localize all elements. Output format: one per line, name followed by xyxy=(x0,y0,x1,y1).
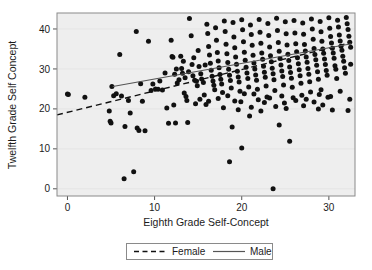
scatter-point xyxy=(281,82,286,87)
scatter-point xyxy=(277,122,282,127)
scatter-point xyxy=(319,39,324,44)
scatter-point xyxy=(322,56,327,61)
scatter-point xyxy=(290,85,295,90)
scatter-point xyxy=(330,108,335,113)
scatter-point xyxy=(245,76,250,81)
scatter-point xyxy=(195,83,200,88)
scatter-point xyxy=(232,45,237,50)
scatter-point xyxy=(318,19,323,24)
scatter-point xyxy=(179,66,184,71)
scatter-point xyxy=(284,31,289,36)
scatter-point xyxy=(287,139,292,144)
scatter-point xyxy=(317,92,322,97)
scatter-point xyxy=(333,67,338,72)
y-axis-label: Twelfth Grade Self Concept xyxy=(6,41,18,169)
y-tick-label: 10 xyxy=(39,143,51,154)
x-axis-label: Eighth Grade Self-Concept xyxy=(143,216,269,228)
scatter-point xyxy=(300,20,305,25)
scatter-point xyxy=(181,59,186,64)
scatter-point xyxy=(293,98,298,103)
scatter-point xyxy=(319,29,324,34)
scatter-point xyxy=(193,101,198,106)
scatter-point xyxy=(185,120,190,125)
scatter-plot-figure: 010203040 0102030 Eighth Grade Self-Conc… xyxy=(0,0,372,270)
scatter-point xyxy=(348,62,353,67)
scatter-point xyxy=(233,54,238,59)
scatter-point xyxy=(198,71,203,76)
scatter-point xyxy=(325,73,330,78)
scatter-point xyxy=(296,61,301,66)
scatter-point xyxy=(213,25,218,30)
scatter-point xyxy=(313,57,318,62)
scatter-point xyxy=(221,105,226,110)
scatter-point xyxy=(109,120,114,125)
x-tick-label: 20 xyxy=(236,202,248,213)
scatter-point xyxy=(328,34,333,39)
scatter-point xyxy=(223,29,228,34)
scatter-point xyxy=(231,34,236,39)
scatter-point xyxy=(238,99,243,104)
scatter-point xyxy=(320,102,325,107)
scatter-point xyxy=(239,146,244,151)
scatter-point xyxy=(323,62,328,67)
scatter-point xyxy=(218,77,223,82)
scatter-point xyxy=(267,44,272,49)
scatter-point xyxy=(302,42,307,47)
scatter-point xyxy=(326,15,331,20)
scatter-point xyxy=(292,30,297,35)
scatter-point xyxy=(140,99,145,104)
scatter-point xyxy=(82,95,87,100)
scatter-point xyxy=(329,40,334,45)
scatter-point xyxy=(336,24,341,29)
y-tick-label: 30 xyxy=(39,64,51,75)
scatter-point xyxy=(219,82,224,87)
scatter-point xyxy=(217,72,222,77)
scatter-point xyxy=(249,105,254,110)
scatter-point xyxy=(184,98,189,103)
scatter-point xyxy=(277,49,282,54)
scatter-point xyxy=(255,87,260,92)
scatter-point xyxy=(293,41,298,46)
scatter-point xyxy=(307,79,312,84)
scatter-point xyxy=(254,78,259,83)
scatter-point xyxy=(131,169,136,174)
scatter-point xyxy=(243,58,248,63)
scatter-point xyxy=(338,89,343,94)
scatter-point xyxy=(250,43,255,48)
scatter-point xyxy=(328,94,333,99)
scatter-point xyxy=(236,107,241,112)
scatter-point xyxy=(271,186,276,191)
scatter-point xyxy=(312,52,317,57)
scatter-point xyxy=(319,87,324,92)
scatter-point xyxy=(202,92,207,97)
scatter-point xyxy=(107,108,112,113)
scatter-point xyxy=(178,54,183,59)
scatter-point xyxy=(197,64,202,69)
scatter-point xyxy=(279,68,284,73)
scatter-point xyxy=(242,50,247,55)
scatter-point xyxy=(197,97,202,102)
scatter-point xyxy=(306,72,311,77)
x-tick-label: 10 xyxy=(149,202,161,213)
scatter-point xyxy=(287,64,292,69)
legend-label-female: Female xyxy=(172,246,206,257)
scatter-point xyxy=(117,52,122,57)
scatter-point xyxy=(150,82,155,87)
y-tick-label: 20 xyxy=(39,103,51,114)
scatter-point xyxy=(309,16,314,21)
scatter-point xyxy=(312,100,317,105)
scatter-point xyxy=(288,70,293,75)
scatter-point xyxy=(210,78,215,83)
chart-canvas: 010203040 0102030 Eighth Grade Self-Conc… xyxy=(0,0,372,270)
scatter-point xyxy=(258,30,263,35)
scatter-point xyxy=(229,86,234,91)
scatter-point xyxy=(335,18,340,23)
scatter-point xyxy=(190,62,195,67)
scatter-point xyxy=(272,88,277,93)
scatter-point xyxy=(282,100,287,105)
scatter-point xyxy=(264,84,269,89)
x-tick-label: 30 xyxy=(323,202,335,213)
scatter-point xyxy=(297,67,302,72)
scatter-point xyxy=(339,48,344,53)
scatter-point xyxy=(283,19,288,24)
